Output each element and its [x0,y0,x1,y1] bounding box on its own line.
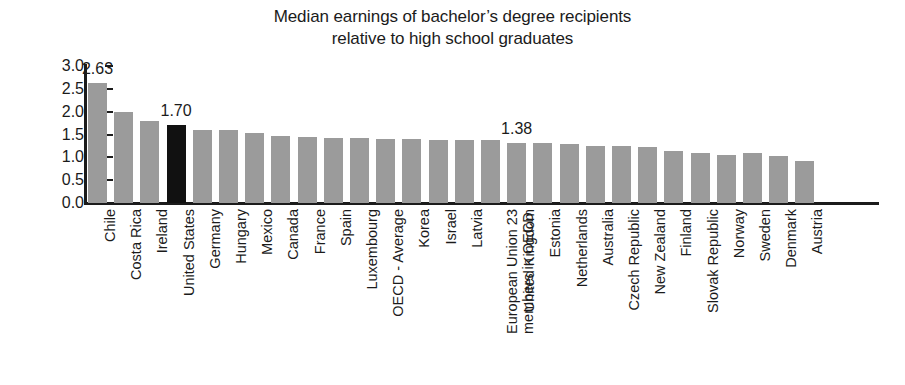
bar-spain [324,138,343,203]
bar-luxembourg [350,138,369,203]
bar-finland [664,151,683,203]
x-axis-label-line: Canada [285,209,301,260]
x-axis-label: Czech Republic [627,209,642,311]
x-axis-label-line: Australia [600,209,616,265]
x-axis-label-line: Costa Rica [128,209,144,280]
x-axis-label: United States [182,209,197,296]
bar-korea [402,139,421,203]
bar-norway [717,155,736,203]
y-axis-line [84,64,87,204]
x-axis-label-line: Ireland [154,209,170,253]
y-axis-tick-label: 3.0 [44,58,84,74]
x-axis-label: Latvia [470,209,485,248]
x-axis-label: France [313,209,328,254]
x-axis-label-line: Luxembourg [364,209,380,290]
bar-value-label: 1.38 [501,121,532,137]
y-axis-tick-label: 0.5 [44,172,84,188]
bar-france [298,137,317,203]
x-axis-label: Mexico [260,209,275,255]
x-axis-label-line: United States [181,209,197,296]
x-axis-label: Finland [679,209,694,257]
x-axis-label: Estonia [548,209,563,257]
x-axis-label: Sweden [758,209,773,261]
x-axis-label-line: Denmark [783,209,799,268]
y-axis-tick-label: 2.0 [44,104,84,120]
bar-united-states [167,125,186,203]
x-axis-label-line: Estonia [547,209,563,257]
x-axis-label: Spain [339,209,354,246]
x-axis-label: Ireland [155,209,170,253]
bar-chile [88,83,107,203]
chart-title: Median earnings of bachelor’s degree rec… [0,6,905,50]
x-axis-label-line: Sweden [757,209,773,261]
bar-value-label: 2.63 [82,61,113,77]
x-axis-label-line: New Zealand [652,209,668,294]
x-axis-label-line: France [312,209,328,254]
x-axis-label: Luxembourg [365,209,380,290]
bar-israel [429,140,448,203]
x-axis-label-line: Finland [678,209,694,257]
x-axis-label: Germany [208,209,223,269]
bar-austria [795,161,814,203]
x-axis-label: Hungary [234,209,249,264]
x-axis-label-line: United Kingdom [521,209,537,312]
bar-united-kingdom [507,143,526,203]
x-axis-label-line: Chile [102,209,118,242]
x-axis-label: Netherlands [575,209,590,287]
x-axis-label: New Zealand [653,209,668,294]
x-axis-label-line: Korea [416,209,432,248]
x-axis-label: Chile [103,209,118,242]
bar-european-union-23-members-in-oecd [481,140,500,203]
plot-area [88,66,873,203]
x-axis-label: Norway [732,209,747,258]
x-axis-label: Slovak Republic [706,209,721,313]
x-axis-label-line: Hungary [233,209,249,264]
bar-new-zealand [638,147,657,203]
chart-title-line-1: Median earnings of bachelor’s degree rec… [0,6,905,28]
bar-ireland [140,121,159,203]
x-axis-label-line: Spain [338,209,354,246]
bar-oecd-average [376,139,395,203]
x-axis-label: Costa Rica [129,209,144,280]
bar-mexico [245,133,264,203]
x-axis-label: Australia [601,209,616,265]
x-axis-label: OECD - Average [391,209,406,317]
x-axis-label-line: Netherlands [574,209,590,287]
y-axis-tick-label: 2.5 [44,81,84,97]
bar-sweden [743,153,762,203]
x-axis-label: Israel [444,209,459,244]
x-axis-label-line: Germany [207,209,223,269]
bar-latvia [455,140,474,203]
x-axis-label-line: Norway [731,209,747,258]
bar-denmark [769,156,788,203]
x-axis-label: United Kingdom [522,209,537,312]
x-axis-label-line: Slovak Republic [705,209,721,313]
y-axis-tick-label: 1.0 [44,149,84,165]
bar-germany [193,130,212,203]
x-axis-label: Denmark [784,209,799,268]
x-axis-label-line: Czech Republic [626,209,642,311]
bar-estonia [533,143,552,203]
bar-costa-rica [114,112,133,203]
bar-australia [586,146,605,203]
bar-canada [271,136,290,203]
chart-container: Median earnings of bachelor’s degree rec… [0,0,905,385]
bar-czech-republic [612,146,631,203]
x-axis-label: Austria [810,209,825,254]
x-axis-label-line: OECD - Average [390,209,406,317]
x-axis-label-line: Mexico [259,209,275,255]
bar-value-label: 1.70 [161,103,192,119]
bar-netherlands [560,144,579,203]
x-axis-label-layer: ChileCosta RicaIrelandUnited StatesGerma… [0,206,905,385]
y-axis-tick-label: 1.5 [44,127,84,143]
bar-hungary [219,130,238,203]
x-axis-label-line: European Union 23 [504,209,520,334]
x-axis-label: Korea [417,209,432,248]
x-axis-label-line: Austria [809,209,825,254]
chart-title-line-2: relative to high school graduates [0,28,905,50]
x-axis-label: Canada [286,209,301,260]
x-axis-label-line: Latvia [469,209,485,248]
x-axis-label-line: Israel [443,209,459,244]
bar-slovak-republic [691,153,710,203]
